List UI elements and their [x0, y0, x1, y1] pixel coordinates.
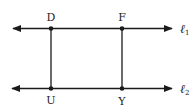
label-l1: ℓ1 [180, 22, 189, 37]
point-y [120, 86, 125, 91]
label-f: F [118, 11, 126, 24]
label-l2: ℓ2 [180, 82, 189, 97]
point-d [49, 26, 54, 31]
label-d: D [47, 11, 56, 24]
point-u [49, 86, 54, 91]
label-u: U [46, 94, 55, 107]
label-y: Y [117, 95, 126, 108]
point-f [120, 26, 125, 31]
parallel-lines-diagram: D F U Y ℓ1 ℓ2 [0, 0, 196, 111]
